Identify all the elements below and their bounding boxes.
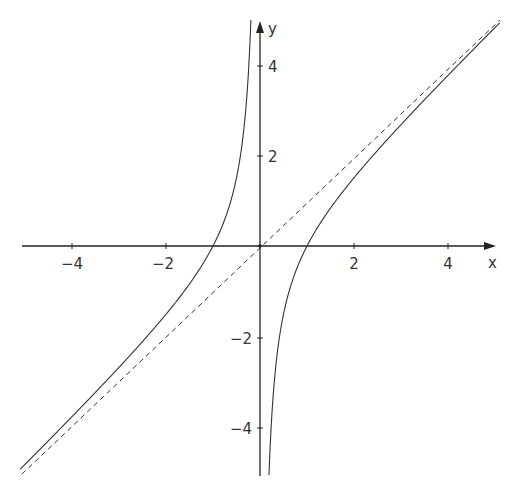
x-tick-label: −2 [152, 255, 174, 273]
x-tick-label: −4 [61, 255, 83, 273]
x-axis-arrow-icon [484, 242, 496, 250]
y-tick-label: 4 [268, 58, 278, 76]
function-plot: −4 −2 2 4 4 2 −2 −4 x y [0, 0, 522, 497]
x-axis-label: x [488, 254, 497, 272]
x-tick-label: 4 [443, 255, 453, 273]
y-tick-label: 2 [268, 148, 278, 166]
curve-left-branch [20, 15, 251, 469]
y-axis-arrow-icon [256, 21, 264, 33]
y-axis-label: y [268, 20, 277, 38]
y-tick-label: −4 [230, 420, 252, 438]
origin-dot [258, 244, 262, 248]
x-tick-label: 2 [349, 255, 359, 273]
curve-right-branch [269, 23, 500, 477]
y-tick-label: −2 [230, 330, 252, 348]
